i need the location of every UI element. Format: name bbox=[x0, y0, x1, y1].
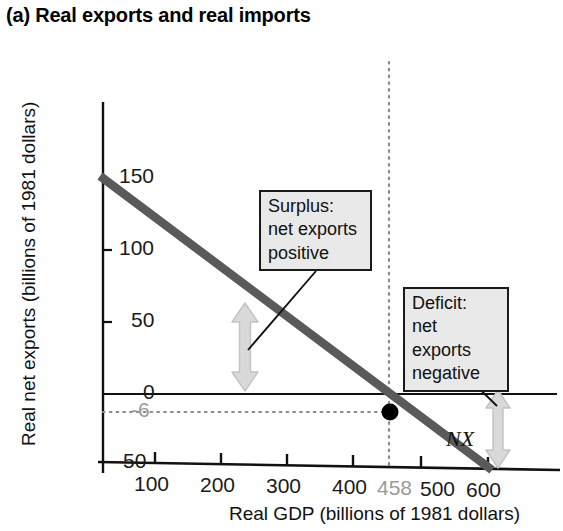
x-tick-label-300: 300 bbox=[266, 474, 301, 498]
y-tick-label-150: 150 bbox=[119, 164, 154, 188]
surplus-callout: Surplus: net exports positive bbox=[259, 190, 372, 271]
y-tick-label-100: 100 bbox=[119, 236, 154, 260]
x-tick-label-100: 100 bbox=[134, 472, 169, 496]
x-tick-label-200: 200 bbox=[200, 473, 235, 497]
x-tick-label-400: 400 bbox=[332, 475, 367, 499]
figure-panel-a: (a) Real exports and real imports bbox=[0, 0, 563, 531]
y-tick-label-50: 50 bbox=[131, 308, 154, 332]
deficit-gap-arrow bbox=[486, 390, 510, 468]
surplus-gap-arrow bbox=[232, 303, 258, 391]
deficit-callout: Deficit: net exports negative bbox=[403, 287, 509, 392]
x-tick-label-458: 458 bbox=[377, 476, 412, 500]
y-tick-label-minus-6: -6 bbox=[131, 398, 150, 422]
surplus-leader-line bbox=[248, 271, 316, 350]
x-tick-label-500: 500 bbox=[420, 477, 455, 501]
nx-curve-label: NX bbox=[446, 426, 474, 452]
x-axis-title: Real GDP (billions of 1981 dollars) bbox=[229, 503, 520, 525]
equilibrium-point-marker bbox=[382, 404, 399, 421]
x-tick-label-600: 600 bbox=[466, 478, 501, 502]
y-axis-title: Real net exports (billions of 1981 dolla… bbox=[18, 102, 40, 446]
y-tick-label-minus-50: -50 bbox=[116, 449, 146, 473]
